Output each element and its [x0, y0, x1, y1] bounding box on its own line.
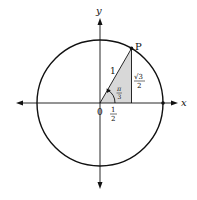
- point-P-label: P: [135, 41, 142, 52]
- opposite-numerator: √3: [134, 73, 143, 81]
- opposite-denominator: 2: [137, 82, 141, 90]
- x-axis-right-arrow-icon: [171, 101, 178, 106]
- unit-circle-diagram: y x P 0 1 π 3 1 2 √3 2: [0, 0, 197, 200]
- y-axis-down-arrow-icon: [98, 182, 103, 189]
- angle-numerator: π: [116, 85, 122, 93]
- point-P-dot: [130, 47, 134, 51]
- x-axis-label: x: [181, 97, 187, 108]
- origin-label: 0: [97, 107, 103, 117]
- hypotenuse-label: 1: [110, 66, 116, 76]
- y-axis-up-arrow-icon: [98, 18, 103, 25]
- angle-denominator: 3: [118, 93, 122, 100]
- point-1-0-dot: [161, 101, 165, 105]
- adjacent-denominator: 2: [111, 115, 115, 123]
- x-axis-left-arrow-icon: [16, 101, 23, 106]
- adjacent-numerator: 1: [111, 106, 115, 114]
- y-axis-label: y: [95, 5, 102, 16]
